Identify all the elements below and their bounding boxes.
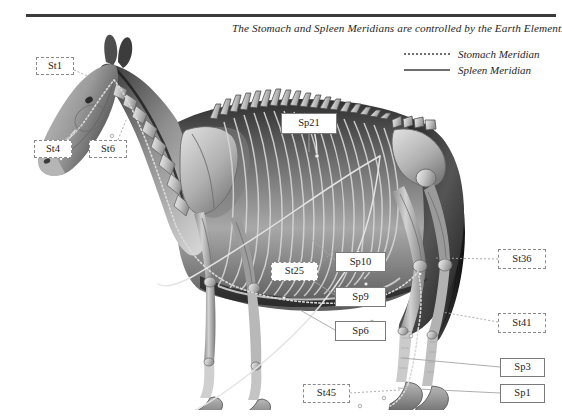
callout-st1[interactable]: St1 (36, 57, 74, 75)
callout-sp1[interactable]: Sp1 (500, 384, 545, 403)
callout-st41[interactable]: St41 (498, 313, 546, 333)
horse-illustration-svg (28, 26, 528, 410)
callout-st45[interactable]: St45 (303, 384, 350, 403)
callout-st6[interactable]: St6 (89, 140, 127, 158)
header-divider-rule (26, 14, 556, 17)
callout-sp6[interactable]: Sp6 (335, 321, 386, 341)
horse-anatomy-illustration (28, 26, 528, 410)
callout-sp21[interactable]: Sp21 (281, 113, 337, 134)
callout-st25[interactable]: St25 (271, 262, 318, 281)
callout-sp9[interactable]: Sp9 (335, 287, 386, 307)
meridian-chart-page: The Stomach and Spleen Meridians are con… (0, 0, 562, 420)
callout-st4[interactable]: St4 (34, 140, 72, 158)
callout-st36[interactable]: St36 (498, 249, 546, 269)
callout-sp10[interactable]: Sp10 (335, 252, 386, 272)
callout-sp3[interactable]: Sp3 (500, 358, 545, 377)
